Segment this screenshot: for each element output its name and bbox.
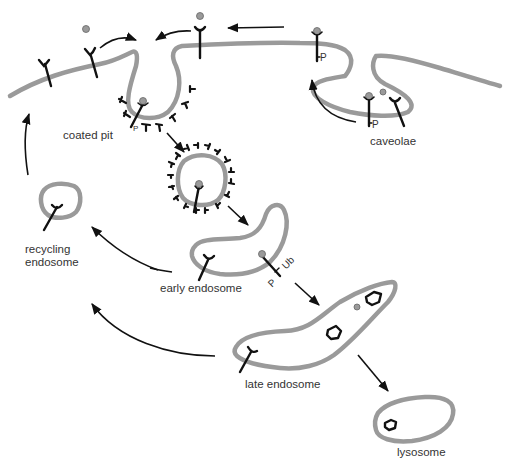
arrow-early-to-recycling [92,227,158,270]
svg-text:P: P [320,52,327,63]
late-endosome-aggregate-1 [366,292,381,305]
lysosome [375,397,453,442]
label-caveolae: caveolae [370,135,416,147]
ligand-free-top [197,13,204,20]
surface-receptor-left-2 [85,48,97,77]
arrow-vesicle-to-early-endosome [228,206,248,225]
arrow-late-endosome-to-lysosome [358,355,388,391]
svg-text:Ub: Ub [280,254,297,271]
arrow-recycling-to-membrane [25,114,29,175]
label-late-endosome: late endosome [245,378,320,390]
label-early-endosome: early endosome [160,282,242,294]
endocytosis-diagram: P P caveolae P coated pit [0,0,508,467]
surface-receptor-top [195,27,205,58]
lysosome-aggregate [385,420,396,430]
svg-text:P: P [372,119,379,130]
caveola-ligand [380,89,386,95]
early-endosome: P Ub [192,205,297,289]
caveola-phospho-receptor: P [364,93,379,131]
arrow-caveolae-to-surface [312,80,356,122]
late-endosome-aggregate-2 [327,326,341,339]
arrow-surface-to-top-receptor [228,27,284,28]
ligand-free-left [83,26,90,33]
early-endosome-tail-line [150,268,172,272]
svg-text:P: P [133,124,138,133]
plasma-membrane [10,43,500,118]
arrow-top-receptor-to-pit [156,31,191,40]
svg-text:P: P [266,276,279,289]
late-endosome [235,282,396,372]
recycling-endosome [41,184,80,230]
arrow-late-to-recycling [92,304,215,356]
arrow-receptor-to-pit [100,38,136,48]
late-endosome-ligand [354,304,360,310]
arrow-pit-to-vesicle [167,133,184,152]
arrow-early-to-late-endosome [295,283,319,305]
label-coated-pit: coated pit [63,129,114,141]
label-recycling-endosome-1: recycling [25,243,70,255]
label-recycling-endosome-2: endosome [25,256,79,268]
label-lysosome: lysosome [397,446,446,458]
coated-vesicle [168,143,234,213]
